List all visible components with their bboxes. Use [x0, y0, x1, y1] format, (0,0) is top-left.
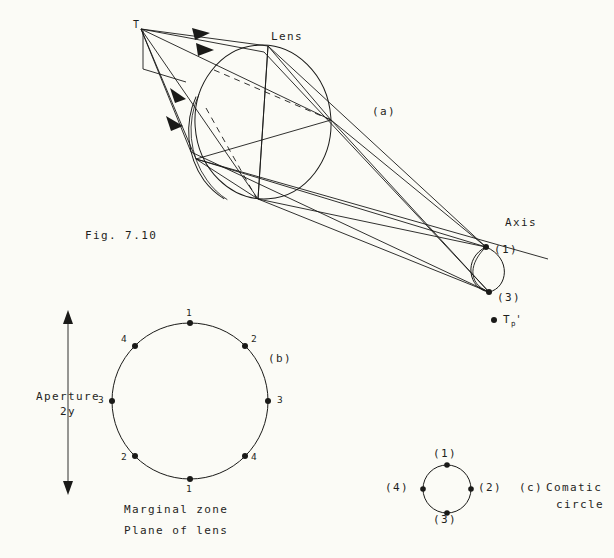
- figure-number-label: Fig. 7.10: [85, 229, 157, 244]
- aperture-label-line-2: 2y: [60, 405, 76, 418]
- lens-chord-diag-a: [196, 120, 331, 159]
- zone-point-label-1-bottom: 1: [186, 483, 192, 496]
- lens-label: Lens: [271, 30, 303, 45]
- refracted-ray-4: [331, 120, 489, 292]
- panel-a-drawing: [141, 28, 548, 323]
- zone-point-label-3-left: 3: [98, 394, 104, 407]
- comatic-circle: [423, 465, 471, 513]
- comatic-point-label-4: (4): [385, 481, 409, 496]
- paraxial-focus-point: [491, 317, 497, 323]
- image-point-3: [486, 289, 492, 295]
- comatic-point-2-right: [468, 486, 474, 492]
- refracted-ray-2: [264, 52, 489, 292]
- zone-point-1-bottom: [187, 476, 193, 482]
- arrowhead-4: [166, 116, 183, 131]
- marginal-zone-caption: Marginal zone: [124, 503, 228, 518]
- zone-point-label-2-lower-left: 2: [121, 451, 127, 464]
- aperture-arrow-head-bottom: [63, 481, 73, 495]
- lens-hidden-edge-upper: [214, 70, 331, 120]
- zone-point-4-upper-left: [132, 343, 138, 349]
- paraxial-focus-label-prime: ': [516, 314, 522, 325]
- zone-point-label-2-upper-right: 2: [251, 333, 257, 346]
- refracted-ray-5: [196, 159, 486, 247]
- zone-point-2-lower-left: [132, 453, 138, 459]
- zone-point-label-1-top: 1: [186, 307, 192, 320]
- zone-point-4-lower-right: [242, 453, 248, 459]
- object-height-foot: [143, 69, 186, 82]
- panel-c-drawing: [420, 462, 474, 516]
- zone-point-3-right: [265, 398, 271, 404]
- image-point-3-label: (3): [497, 291, 521, 306]
- panel-b-key: (b): [268, 352, 292, 367]
- paraxial-focus-label-base: T: [503, 313, 511, 326]
- marginal-zone-points: [109, 320, 271, 482]
- arrowhead-2: [196, 43, 214, 56]
- zone-point-label-4-upper-left: 4: [121, 333, 127, 346]
- zone-point-label-3-right: 3: [277, 394, 283, 407]
- aperture-arrow-head-top: [63, 310, 73, 324]
- source-point-label: T: [133, 18, 140, 32]
- paraxial-focus-label: Tp': [503, 313, 522, 329]
- comatic-point-4-left: [420, 486, 426, 492]
- axis-label: Axis: [505, 216, 537, 231]
- comatic-circle-caption-line-1: Comatic: [546, 481, 602, 496]
- panel-a-key: (a): [372, 105, 396, 120]
- zone-point-1-top: [187, 320, 193, 326]
- lens-chord-diag-b: [258, 46, 268, 199]
- figure-canvas: T Lens (a) Axis (1) (3) Tp' Fig. 7.10 Ap…: [0, 0, 614, 558]
- comatic-point-label-2: (2): [478, 481, 502, 496]
- comatic-point-1-top: [444, 462, 450, 468]
- refracted-ray-7: [258, 199, 486, 247]
- image-point-1: [483, 244, 489, 250]
- refracted-ray-6: [191, 152, 489, 292]
- refracted-ray-1: [268, 46, 486, 247]
- zone-point-label-4-lower-right: 4: [251, 451, 257, 464]
- comatic-point-label-3: (3): [433, 513, 457, 528]
- aperture-label: Aperture2y: [12, 390, 124, 420]
- image-point-1-label: (1): [494, 243, 518, 258]
- comatic-circle-points: [420, 462, 474, 516]
- panel-c-key: (c): [519, 481, 543, 496]
- refracted-ray-3: [331, 120, 486, 247]
- zone-point-2-upper-right: [242, 343, 248, 349]
- comatic-point-label-1: (1): [433, 447, 457, 462]
- figure-drawing: [0, 0, 614, 558]
- aperture-label-line-1: Aperture: [36, 390, 100, 403]
- comatic-circle-caption-line-2: circle: [556, 498, 604, 513]
- plane-of-lens-caption: Plane of lens: [124, 524, 228, 539]
